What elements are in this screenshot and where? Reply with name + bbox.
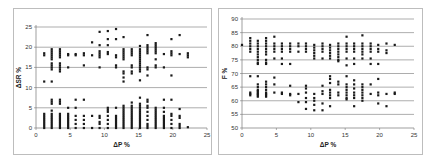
data-point — [345, 36, 347, 38]
x-tick-label: 20 — [376, 132, 383, 138]
x-tick-label: 0 — [240, 132, 244, 138]
data-point — [353, 51, 355, 53]
data-point — [385, 52, 387, 54]
data-point — [265, 51, 267, 53]
data-point — [329, 91, 331, 93]
y-tick-label: 55 — [231, 111, 238, 117]
data-point — [281, 51, 283, 53]
y-tick-label: 65 — [231, 84, 238, 90]
data-point — [370, 51, 372, 53]
data-point — [329, 52, 331, 54]
data-point — [337, 59, 339, 61]
data-point — [257, 40, 259, 42]
data-point — [265, 81, 267, 83]
data-point — [361, 89, 363, 91]
data-point — [329, 49, 331, 51]
plot-area: 5055606570758085900510152025ΔP %F % — [221, 16, 418, 148]
data-point — [345, 89, 347, 91]
data-point — [337, 94, 339, 96]
data-point — [337, 42, 339, 44]
data-point — [370, 83, 372, 85]
data-point — [289, 51, 291, 53]
data-point — [273, 76, 275, 78]
data-point — [353, 105, 355, 107]
data-point — [281, 57, 283, 59]
data-point — [353, 63, 355, 65]
data-point — [281, 91, 283, 93]
data-point — [289, 42, 291, 44]
data-point — [305, 45, 307, 47]
data-point — [313, 104, 315, 106]
data-point — [345, 86, 347, 88]
data-point — [305, 85, 307, 87]
data-point — [265, 40, 267, 42]
data-point — [265, 42, 267, 44]
data-point — [273, 83, 275, 85]
data-point — [385, 42, 387, 44]
data-point — [297, 42, 299, 44]
data-point — [321, 90, 323, 92]
data-point — [345, 57, 347, 59]
data-point — [273, 91, 275, 93]
data-point — [337, 81, 339, 83]
data-point — [249, 37, 251, 39]
data-point — [377, 78, 379, 80]
data-point — [353, 57, 355, 59]
data-point — [329, 47, 331, 49]
data-point — [394, 91, 396, 93]
data-point — [257, 89, 259, 91]
data-point — [265, 91, 267, 93]
data-point — [353, 94, 355, 96]
data-point — [361, 97, 363, 99]
data-point — [265, 89, 267, 91]
data-point — [321, 102, 323, 104]
data-point — [337, 91, 339, 93]
y-tick-label: 90 — [231, 16, 238, 22]
data-point — [377, 44, 379, 46]
y-tick-label: 80 — [231, 43, 238, 49]
x-tick-label: 10 — [307, 132, 314, 138]
data-point — [281, 48, 283, 50]
data-point — [345, 48, 347, 50]
data-point — [385, 93, 387, 95]
data-point — [297, 93, 299, 95]
data-point — [353, 91, 355, 93]
data-point — [257, 53, 259, 55]
data-point — [321, 45, 323, 47]
data-point — [345, 98, 347, 100]
y-tick-label: 50 — [231, 125, 238, 131]
data-point — [361, 34, 363, 36]
data-point — [257, 42, 259, 44]
data-point — [265, 37, 267, 39]
data-point — [377, 48, 379, 50]
data-point — [297, 101, 299, 103]
data-point — [370, 63, 372, 65]
data-point — [321, 109, 323, 111]
data-point — [305, 97, 307, 99]
data-point — [249, 51, 251, 53]
data-point — [257, 48, 259, 50]
data-point — [265, 53, 267, 55]
data-point — [289, 85, 291, 87]
data-point — [313, 97, 315, 99]
data-point — [345, 75, 347, 77]
data-point — [265, 45, 267, 47]
data-point — [305, 87, 307, 89]
data-point — [265, 48, 267, 50]
data-point — [289, 48, 291, 50]
data-point — [329, 75, 331, 77]
data-point — [337, 51, 339, 53]
y-tick-label: 60 — [231, 98, 238, 104]
data-point — [321, 48, 323, 50]
data-point — [361, 57, 363, 59]
data-point — [329, 82, 331, 84]
data-point — [377, 91, 379, 93]
data-point — [377, 63, 379, 65]
y-tick-label: 75 — [231, 57, 238, 63]
y-tick-label: 85 — [231, 30, 238, 36]
data-point — [361, 83, 363, 85]
data-point — [313, 93, 315, 95]
data-point — [265, 83, 267, 85]
data-point — [305, 108, 307, 110]
data-point — [345, 64, 347, 66]
